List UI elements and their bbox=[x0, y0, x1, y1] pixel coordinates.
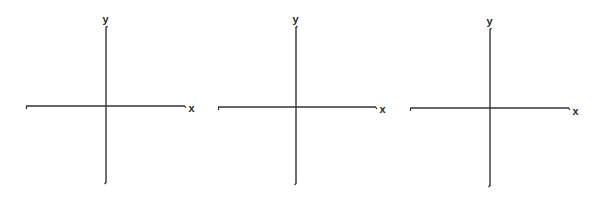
y-axis-bottom-tick bbox=[489, 186, 491, 188]
x-axis-label: x bbox=[380, 103, 387, 115]
y-axis-bottom-tick bbox=[105, 183, 107, 185]
x-axis-label: x bbox=[573, 105, 580, 117]
x-axis-right-tick bbox=[569, 108, 571, 110]
x-axis-label: x bbox=[189, 102, 196, 114]
x-axis-right-tick bbox=[376, 107, 378, 109]
x-axis-right-tick bbox=[185, 106, 187, 108]
y-axis-top-tick bbox=[106, 26, 108, 28]
coordinate-axes-3: y x bbox=[410, 15, 580, 187]
coordinate-axes-1: y x bbox=[26, 13, 196, 184]
y-axis-label: y bbox=[487, 15, 494, 27]
coordinate-axes-2: y x bbox=[218, 13, 387, 185]
y-axis-bottom-tick bbox=[295, 184, 297, 186]
axes-figure: y x y x y x bbox=[0, 0, 605, 211]
y-axis-top-tick bbox=[296, 26, 298, 28]
y-axis-label: y bbox=[293, 13, 300, 25]
y-axis-top-tick bbox=[490, 28, 492, 30]
y-axis-label: y bbox=[103, 13, 110, 25]
